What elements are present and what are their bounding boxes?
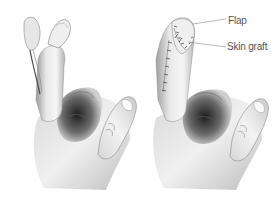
hand-before-icon xyxy=(0,0,140,204)
flap-leader-line xyxy=(193,19,226,24)
hand-before-illustration xyxy=(0,0,140,204)
flap-label: Flap xyxy=(228,15,247,26)
hand-after-icon xyxy=(138,0,278,204)
hand-after-illustration xyxy=(138,0,278,204)
skin-graft-label: Skin graft xyxy=(227,41,267,52)
